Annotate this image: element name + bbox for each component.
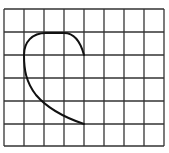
diagram-canvas: [0, 0, 169, 153]
grid-diagram: [0, 0, 169, 153]
grid-lines: [4, 9, 164, 146]
